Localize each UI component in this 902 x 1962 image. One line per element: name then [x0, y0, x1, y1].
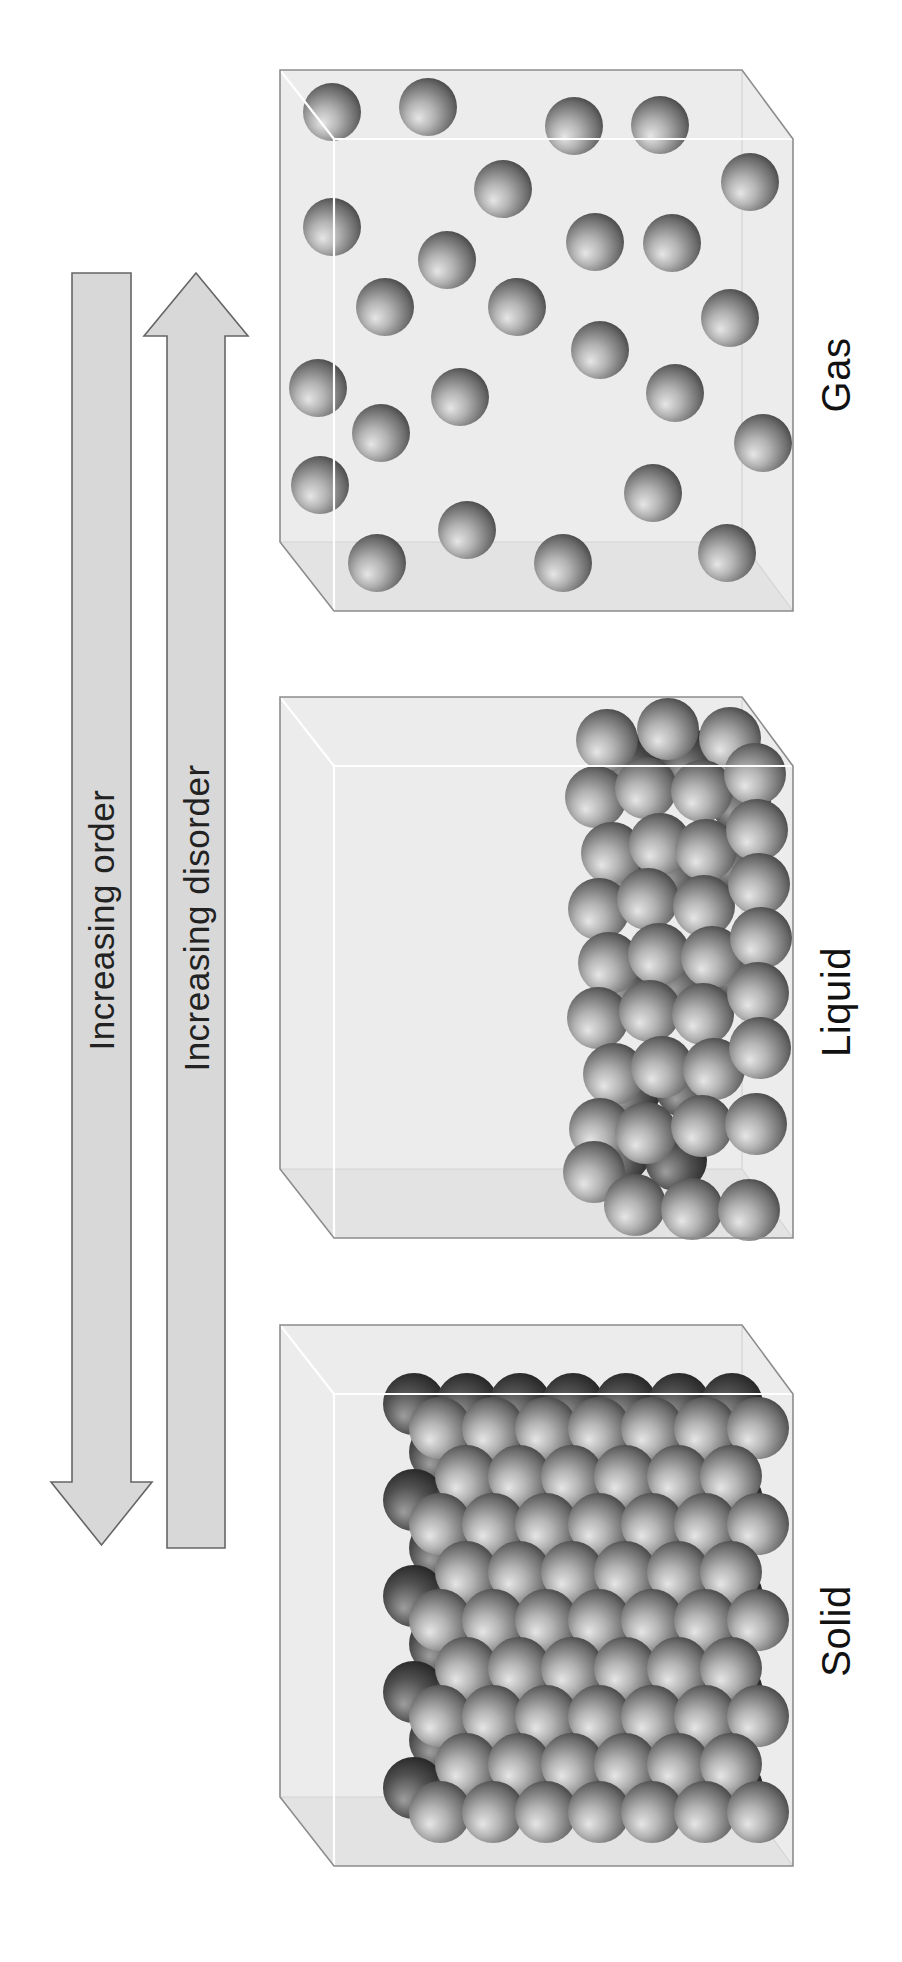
solid-particle — [409, 1781, 471, 1843]
gas-particle — [646, 364, 704, 422]
gas-particle — [418, 231, 476, 289]
gas-particle — [698, 524, 756, 582]
liquid-particle — [567, 987, 629, 1049]
gas-particle — [356, 278, 414, 336]
increasing-order-label: Increasing order — [84, 790, 119, 1051]
liquid-particle — [729, 1017, 791, 1079]
liquid-particle — [727, 962, 789, 1024]
gas-particle — [571, 321, 629, 379]
gas-particle — [474, 160, 532, 218]
gas-particle — [438, 501, 496, 559]
gas-particle — [624, 464, 682, 522]
gas-particle — [734, 414, 792, 472]
liquid-particle — [628, 923, 690, 985]
gas-particle — [348, 534, 406, 592]
liquid-particle — [730, 907, 792, 969]
solid-box — [280, 1325, 793, 1866]
solid-particle — [568, 1781, 630, 1843]
liquid-particle — [671, 760, 733, 822]
increasing-disorder-label: Increasing disorder — [179, 764, 214, 1071]
liquid-particle — [728, 853, 790, 915]
solid-particle — [674, 1781, 736, 1843]
gas-particle — [303, 198, 361, 256]
solid-particle — [621, 1781, 683, 1843]
liquid-particle — [724, 743, 786, 805]
liquid-particle — [637, 698, 699, 760]
liquid-particle — [604, 1174, 666, 1236]
gas-particle — [291, 456, 349, 514]
gas-particle — [643, 214, 701, 272]
gas-particle — [289, 359, 347, 417]
gas-box — [280, 70, 793, 611]
liquid-particle — [726, 799, 788, 861]
solid-particle — [462, 1781, 524, 1843]
gas-particle — [566, 213, 624, 271]
liquid-particle — [619, 980, 681, 1042]
solid-label: Solid — [816, 1585, 856, 1676]
solid-particle — [727, 1781, 789, 1843]
gas-particle — [352, 404, 410, 462]
liquid-particle — [671, 1095, 733, 1157]
scene-canvas — [0, 0, 902, 1962]
gas-label: Gas — [816, 338, 856, 413]
liquid-particle — [718, 1179, 780, 1241]
solid-particle — [515, 1781, 577, 1843]
solid-particles — [383, 1373, 789, 1843]
liquid-box — [280, 697, 793, 1241]
liquid-particle — [576, 709, 638, 771]
gas-particle — [701, 289, 759, 347]
liquid-particle — [615, 1102, 677, 1164]
liquid-particle — [617, 868, 679, 930]
gas-particle — [399, 78, 457, 136]
gas-particle — [488, 278, 546, 336]
liquid-particle — [725, 1093, 787, 1155]
states-of-matter-figure: Increasing order Increasing disorder Gas… — [0, 0, 902, 1962]
liquid-particle — [661, 1178, 723, 1240]
liquid-label: Liquid — [816, 947, 856, 1057]
liquid-particle — [672, 983, 734, 1045]
gas-particle — [431, 368, 489, 426]
gas-particle — [534, 534, 592, 592]
gas-particle — [545, 97, 603, 155]
gas-particle — [721, 153, 779, 211]
gas-particle — [631, 96, 689, 154]
